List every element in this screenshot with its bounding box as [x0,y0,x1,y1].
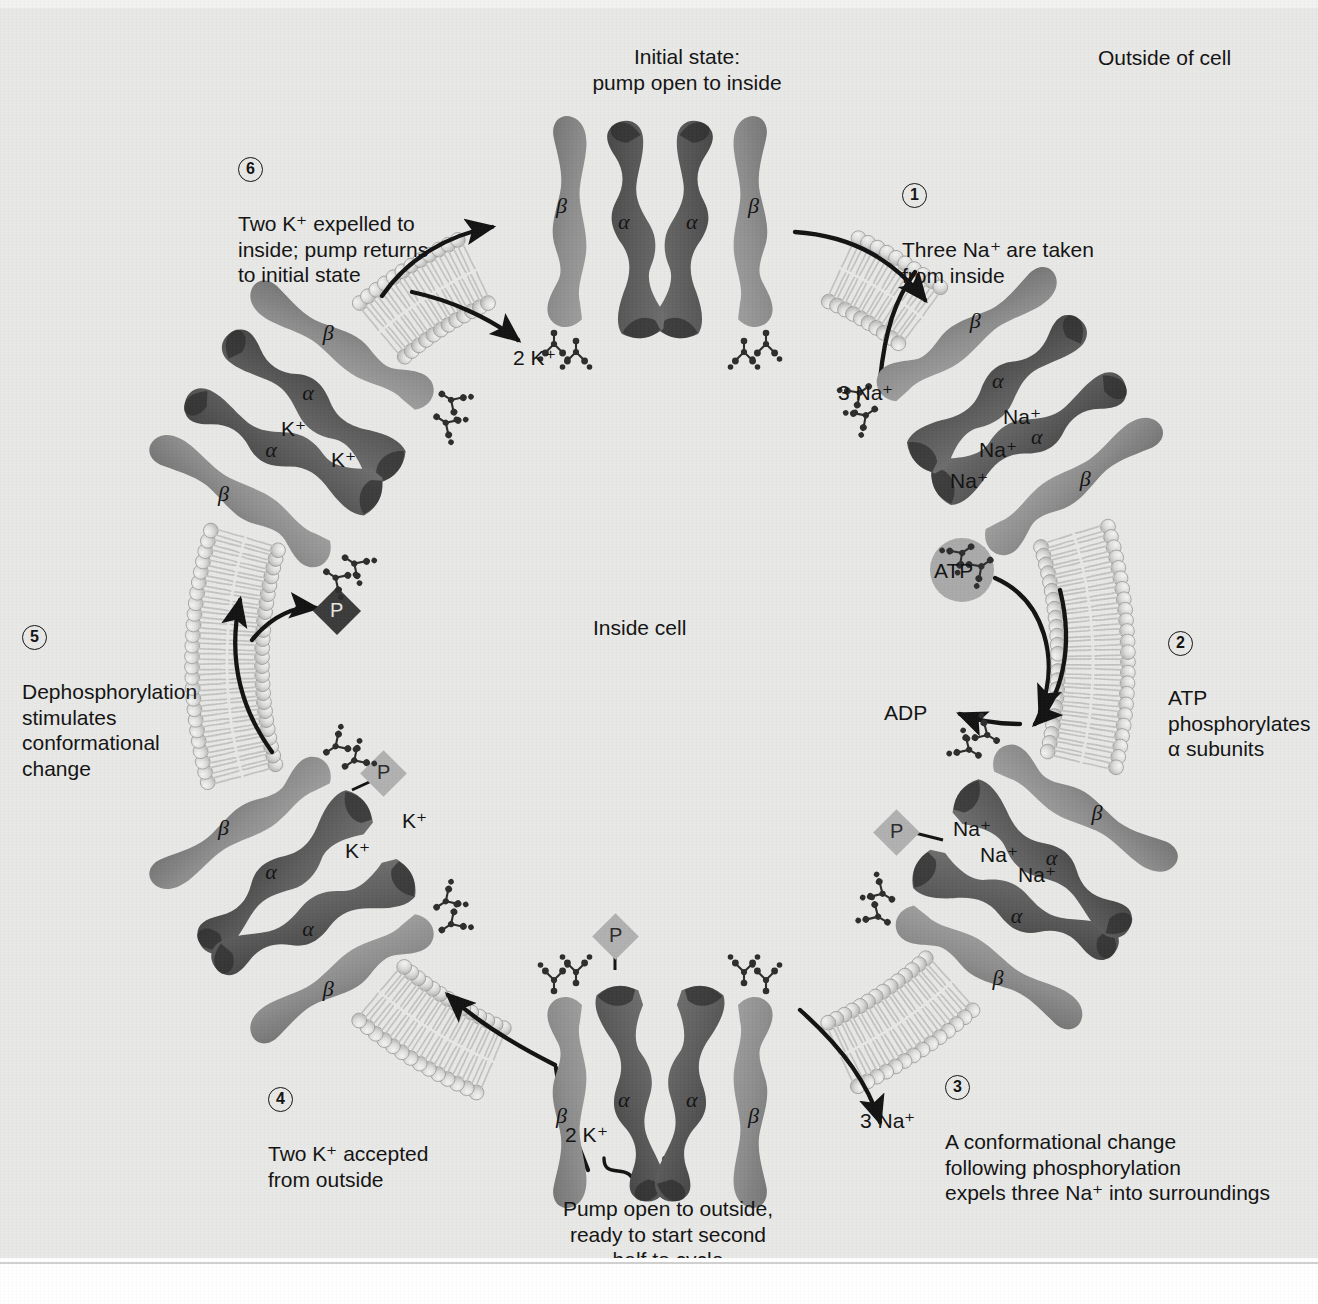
beta-subunit-label: β [218,481,229,508]
glycan-icon [333,542,378,587]
beta-subunit-label: β [748,1103,759,1130]
bottom-white-strip [0,1258,1318,1304]
bound-potassium-2: K⁺ [331,447,356,473]
beta-subunit-label: β [970,308,981,335]
atp-label: ATP [934,558,973,584]
alpha-subunit-label: α [265,859,277,886]
bound-sodium-5: Na⁺ [980,842,1018,868]
arrow-adp-tail [960,714,1020,724]
step-3-number: 3 [945,1075,970,1100]
alpha-subunit-label: α [1046,845,1058,872]
sodium-potassium-pump-figure: Initial state: pump open to inside Outsi… [0,0,1318,1304]
glycan-icon [425,401,470,446]
alpha-subunit-label: α [686,1087,698,1114]
initial-state-label: Initial state: pump open to inside [562,44,812,95]
bound-potassium-3: K⁺ [402,808,427,834]
step-5: 5 Dephosphorylation stimulates conformat… [22,596,197,782]
beta-subunit-label: β [748,193,759,220]
bottom-pump [538,954,783,1208]
step-2: 2 ATP phosphorylates α subunits [1168,602,1310,762]
step-1-number: 1 [902,183,927,208]
alpha-subunit [594,983,667,1205]
step-1: 1 Three Na⁺ are taken from inside [902,154,1094,288]
inside-cell-label: Inside cell [593,615,686,641]
beta-subunit-label: β [323,320,334,347]
step-2-number: 2 [1168,631,1193,656]
beta-subunit-label: β [218,815,229,842]
glycan-icon [538,962,571,994]
glycan-icon [750,330,783,362]
step-4-text: Two K⁺ accepted from outside [268,1142,428,1191]
bound-sodium-4: Na⁺ [953,816,991,842]
alpha-subunit-label: α [265,437,277,464]
flux-3-na-out: 3 Na⁺ [860,1108,915,1134]
step-6-text: Two K⁺ expelled to inside; pump returns … [238,212,428,286]
alpha-subunit-label: α [686,209,698,236]
bound-sodium-2: Na⁺ [979,437,1017,463]
beta-subunit-label: β [556,1103,567,1130]
top-pump [538,116,783,370]
bound-potassium-4: K⁺ [345,838,370,864]
alpha-subunit-label: α [1011,903,1023,930]
beta-subunit [547,116,586,327]
arrow-atp-binding [995,578,1049,712]
phosphate-markers [313,587,943,970]
phosphate-bound-label-bottom: P [609,923,622,947]
step-5-number: 5 [22,625,47,650]
adp-label: ADP [884,700,927,726]
alpha-subunit-label: α [302,380,314,407]
beta-subunit-label: β [556,193,567,220]
flux-2-k-in: 2 K⁺ [565,1122,608,1148]
alpha-subunit [594,119,667,341]
top-paper-strip [0,0,1318,8]
step-6-number: 6 [238,157,263,182]
phosphate-bound-label-left: P [377,760,390,784]
phosphate-bound-label-right: P [890,819,903,843]
alpha-subunit-label: α [302,916,314,943]
bound-sodium-3: Na⁺ [950,468,988,494]
flux-2-k-out: 2 K⁺ [513,345,556,371]
step-3: 3 A conformational change following phos… [945,1046,1270,1206]
alpha-subunit-label: α [1031,424,1043,451]
beta-subunit [734,116,773,327]
step-4: 4 Two K⁺ accepted from outside [268,1058,428,1192]
step-4-number: 4 [268,1087,293,1112]
beta-subunit-label: β [1091,800,1102,827]
step-5-text: Dephosphorylation stimulates conformatio… [22,680,197,780]
glycan-icon [750,962,783,994]
caption-divider [0,1262,1318,1264]
beta-subunit-label: β [323,976,334,1003]
beta-subunit-label: β [993,965,1004,992]
phosphate-free-label: P [330,598,343,622]
glycan-icon [859,871,903,915]
bound-potassium-1: K⁺ [281,416,306,442]
alpha-subunit-label: α [618,1087,630,1114]
alpha-subunit-label: α [992,368,1004,395]
step-2-text: ATP phosphorylates α subunits [1168,686,1310,760]
step-3-text: A conformational change following phosph… [945,1130,1270,1204]
beta-subunit-label: β [1080,466,1091,493]
upper-left-pump [136,262,482,605]
glycan-icon [425,878,470,923]
step-6: 6 Two K⁺ expelled to inside; pump return… [238,128,428,288]
flux-3-na-in: 3 Na⁺ [838,380,893,406]
outside-of-cell-label: Outside of cell [1098,45,1231,71]
glycan-icon [945,727,989,771]
step-1-text: Three Na⁺ are taken from inside [902,238,1094,287]
alpha-subunit-label: α [618,209,630,236]
